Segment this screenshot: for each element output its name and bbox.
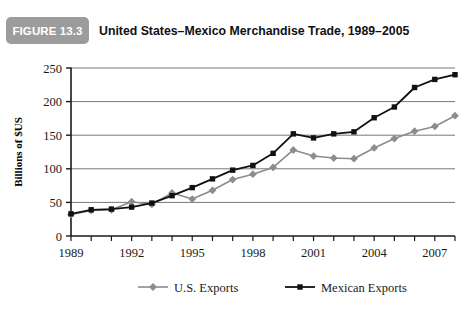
legend-label: Mexican Exports	[321, 281, 407, 295]
data-point-marker	[169, 193, 174, 198]
legend-label: U.S. Exports	[174, 281, 238, 295]
data-point-marker	[411, 127, 419, 135]
data-point-marker	[390, 135, 398, 143]
data-point-marker	[210, 176, 215, 181]
y-axis-tick-label: 100	[43, 162, 62, 176]
data-point-marker	[370, 144, 378, 152]
y-axis-tick-label: 150	[43, 129, 62, 143]
data-point-marker	[371, 115, 376, 120]
x-axis-tick-labels-group: 1989199219951998200120042007	[59, 246, 448, 260]
x-axis-tick-label: 1998	[240, 246, 265, 260]
data-point-marker	[330, 154, 338, 162]
legend-marker	[297, 284, 302, 289]
series-line	[71, 116, 455, 215]
y-axis-tick-label: 200	[43, 95, 62, 109]
x-axis-tick-label: 2007	[422, 246, 447, 260]
series-mexican-exports	[68, 72, 457, 217]
figure-title: United States–Mexico Merchandise Trade, …	[99, 17, 409, 44]
data-point-marker	[190, 185, 195, 190]
data-point-marker	[149, 200, 154, 205]
x-axis-tick-label: 1989	[59, 246, 84, 260]
data-point-marker	[230, 167, 235, 172]
data-point-marker	[129, 204, 134, 209]
data-point-marker	[291, 131, 296, 136]
data-point-marker	[229, 176, 237, 184]
data-series-group	[67, 72, 459, 218]
data-point-marker	[249, 170, 257, 178]
figure-header: FIGURE 13.3 United States–Mexico Merchan…	[6, 17, 463, 44]
data-point-marker	[311, 135, 316, 140]
x-axis-tick-label: 1992	[119, 246, 144, 260]
chart-legend: U.S. ExportsMexican Exports	[138, 281, 407, 295]
axes-group	[66, 68, 455, 237]
data-point-marker	[451, 112, 459, 120]
gridlines-group	[71, 68, 455, 202]
data-point-marker	[270, 151, 275, 156]
y-axis-tick-label: 50	[50, 196, 63, 210]
data-point-marker	[432, 77, 437, 82]
series-line	[71, 75, 455, 214]
chart-plot-area: 050100150200250 198919921995199820012004…	[0, 48, 469, 315]
data-point-marker	[250, 163, 255, 168]
data-point-marker	[412, 85, 417, 90]
data-point-marker	[209, 186, 217, 194]
y-axis-tick-label: 250	[43, 62, 62, 76]
data-point-marker	[188, 195, 196, 203]
line-chart-svg: 050100150200250 198919921995199820012004…	[0, 48, 469, 315]
legend-item[interactable]: Mexican Exports	[285, 281, 407, 295]
data-point-marker	[452, 72, 457, 77]
y-axis-title-group: Billions of $US	[12, 117, 24, 187]
y-axis-title: Billions of $US	[12, 117, 24, 187]
x-axis-tick-label: 2001	[301, 246, 326, 260]
data-point-marker	[68, 211, 73, 216]
data-point-marker	[89, 207, 94, 212]
data-point-marker	[351, 129, 356, 134]
data-point-marker	[350, 155, 358, 163]
data-point-marker	[109, 206, 114, 211]
data-point-marker	[310, 152, 318, 160]
y-axis-tick-labels-group: 050100150200250	[43, 62, 62, 244]
legend-item[interactable]: U.S. Exports	[138, 281, 238, 295]
x-axis-tick-label: 2004	[362, 246, 388, 260]
data-point-marker	[392, 104, 397, 109]
data-point-marker	[331, 131, 336, 136]
legend-marker	[149, 283, 157, 291]
figure-number-badge: FIGURE 13.3	[6, 17, 89, 44]
data-point-marker	[431, 123, 439, 131]
y-axis-tick-label: 0	[56, 230, 62, 244]
figure-container: FIGURE 13.3 United States–Mexico Merchan…	[0, 0, 469, 315]
x-axis-tick-label: 1995	[180, 246, 205, 260]
